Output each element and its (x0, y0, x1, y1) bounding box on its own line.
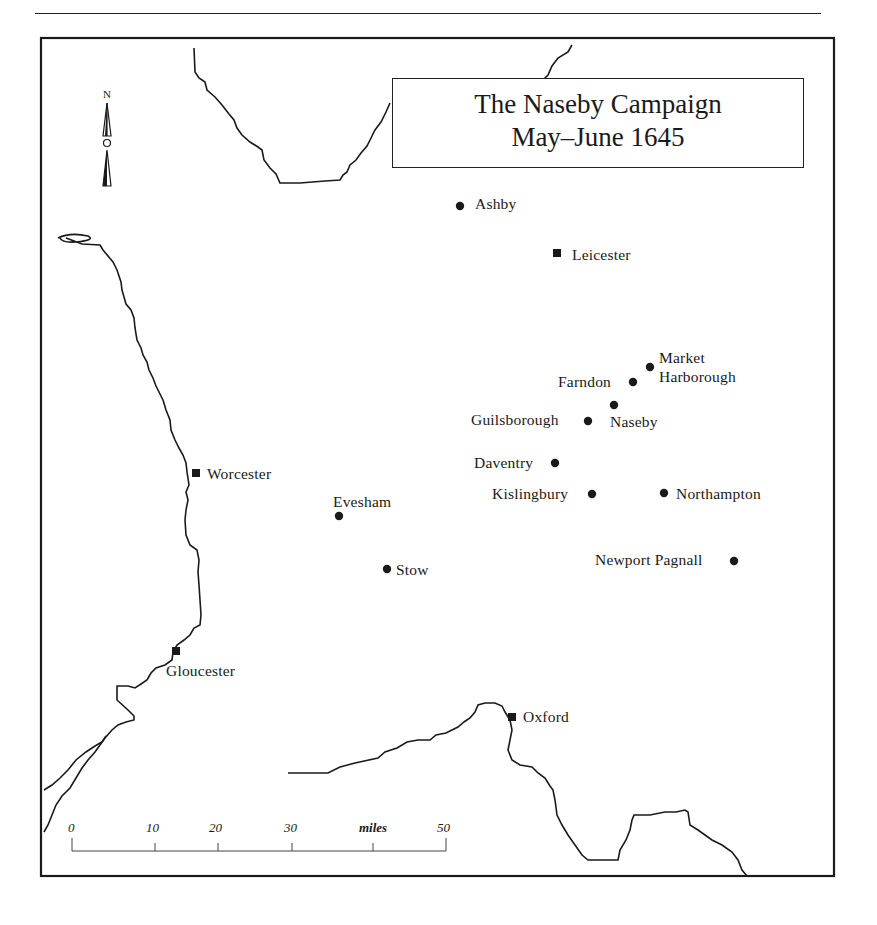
map-title: The Naseby Campaign (393, 88, 803, 120)
river-thames (288, 703, 747, 876)
map-subtitle: May–June 1645 (393, 120, 803, 154)
scale-tick-10: 10 (146, 820, 159, 836)
marker-ashby[interactable] (456, 202, 464, 210)
scale-tick-0: 0 (68, 820, 75, 836)
label-oxford: Oxford (523, 708, 569, 725)
label-gloucester: Gloucester (166, 662, 235, 679)
label-farndon: Farndon (558, 373, 611, 390)
scale-bar (72, 838, 446, 851)
marker-guilsborough[interactable] (584, 417, 592, 425)
marker-worcester[interactable] (192, 469, 200, 477)
marker-gloucester[interactable] (172, 647, 180, 655)
north-arrow-icon (103, 103, 111, 186)
label-stow: Stow (396, 561, 429, 578)
marker-evesham[interactable] (335, 512, 343, 520)
map-title-box: The Naseby Campaign May–June 1645 (392, 78, 804, 168)
marker-farndon[interactable] (629, 378, 637, 386)
label-naseby: Naseby (610, 413, 658, 430)
marker-stow[interactable] (383, 565, 391, 573)
label-ashby: Ashby (475, 195, 516, 212)
river-severn-estuary (44, 736, 106, 790)
label-market-harborough-1: Market (659, 349, 705, 366)
north-label: N (103, 88, 111, 100)
scale-tick-50: 50 (437, 820, 450, 836)
marker-oxford[interactable] (508, 713, 516, 721)
scale-tick-30: 30 (284, 820, 297, 836)
river-severn (44, 234, 201, 832)
label-kislingbury: Kislingbury (492, 485, 568, 502)
marker-naseby[interactable] (610, 401, 618, 409)
scale-unit-label: miles (359, 820, 387, 836)
label-northampton: Northampton (676, 485, 761, 502)
marker-market-harborough[interactable] (646, 363, 654, 371)
label-evesham: Evesham (333, 493, 391, 510)
marker-kislingbury[interactable] (588, 490, 596, 498)
marker-leicester[interactable] (553, 249, 561, 257)
label-leicester: Leicester (572, 246, 631, 263)
label-guilsborough: Guilsborough (471, 411, 559, 428)
label-newport-pagnall: Newport Pagnall (595, 551, 703, 568)
marker-daventry[interactable] (551, 459, 559, 467)
label-daventry: Daventry (474, 454, 533, 471)
label-market-harborough-2: Harborough (659, 368, 736, 385)
marker-northampton[interactable] (660, 489, 668, 497)
label-worcester: Worcester (207, 465, 271, 482)
scale-tick-20: 20 (209, 820, 222, 836)
markers (172, 202, 738, 721)
river-north (194, 48, 390, 183)
marker-newport-pagnall[interactable] (730, 557, 738, 565)
